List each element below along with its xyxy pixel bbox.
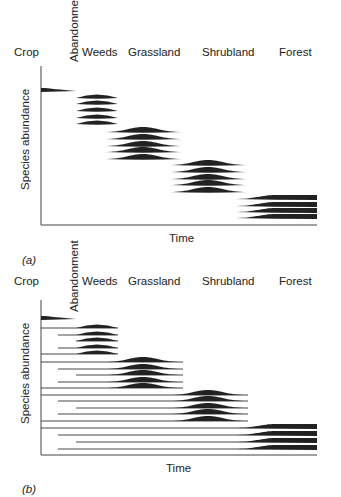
y-axis-label-b: Species abundance [19,323,31,424]
panel-label-a: (a) [22,254,36,266]
panel-b: Crop Abandonment Weeds Grassland Shrubla… [14,240,317,495]
shrubland-species-group-b [169,390,248,421]
stage-label-grassland: Grassland [128,46,180,58]
stage-label-crop-b: Crop [14,275,39,287]
x-axis-label: Time [169,232,194,244]
stage-label-forest-b: Forest [279,275,312,287]
x-axis-label-b: Time [166,462,191,474]
forest-species-group-b [234,424,317,450]
stage-label-abandonment: Abandonment [68,0,80,62]
presence-lines [41,328,317,449]
weeds-species-group-b [76,325,118,355]
crop-species-blade-b [41,316,76,320]
stage-label-grassland-b: Grassland [128,275,180,287]
stage-label-weeds: Weeds [82,46,118,58]
grassland-species-group [104,127,183,160]
stage-label-abandonment-b: Abandonment [68,240,80,312]
panel-label-b: (b) [22,483,36,495]
grassland-species-group-b [104,357,183,388]
stage-label-shrubland-b: Shrubland [202,275,254,287]
stage-label-weeds-b: Weeds [82,275,118,287]
stage-label-forest: Forest [279,46,312,58]
y-axis-label: Species abundance [19,89,31,190]
stage-label-shrubland: Shrubland [202,46,254,58]
panel-a: Crop Abandonment Weeds Grassland Shrubla… [14,0,317,266]
shrubland-species-group [169,160,248,193]
weeds-species-group [76,95,118,125]
succession-diagram: Crop Abandonment Weeds Grassland Shrubla… [0,0,341,497]
stage-label-crop: Crop [14,46,39,58]
crop-species-blade [41,88,76,92]
forest-species-group [234,195,317,219]
